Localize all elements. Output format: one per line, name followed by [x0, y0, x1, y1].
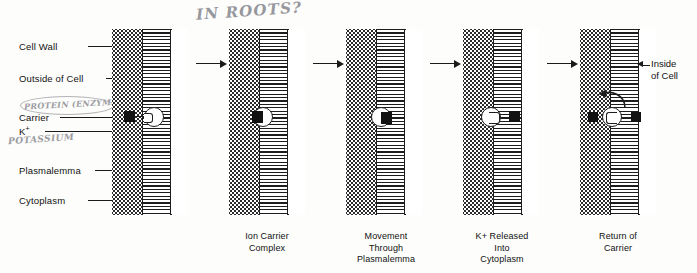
panel-3 [346, 29, 422, 215]
label-carrier: Carrier [19, 112, 49, 123]
panel-5-outside-potassium-ion [588, 112, 598, 122]
leader-inside-of-cell [642, 65, 650, 66]
label-potassium-ion-charge: + [26, 125, 30, 132]
label-inside-of-cell-line2: of Cell [651, 70, 678, 82]
label-cell-wall: Cell Wall [19, 41, 57, 52]
panel-4-carrier [481, 107, 501, 127]
panel-5-cytoplasm [640, 29, 656, 215]
panel-3-bound-potassium-ion [381, 112, 392, 124]
panel-5-return-arrow-icon [596, 87, 630, 111]
caption-panel-5-line1: Return of [562, 231, 674, 243]
panel-1 [112, 29, 188, 215]
caption-panel-5: Return of Carrier [562, 231, 674, 254]
panel-4-released-potassium-ion [509, 111, 520, 122]
panel-2 [229, 29, 305, 215]
handwritten-potassium: POTASSIUM [8, 132, 75, 147]
caption-panel-4: K+ Released Into Cytoplasm [446, 231, 558, 266]
panel-2-bound-potassium-ion [252, 111, 263, 123]
step-arrow-4-head-icon [571, 60, 578, 68]
caption-panel-5-line2: Carrier [562, 243, 674, 255]
panel-3-carrier [371, 107, 391, 127]
panel-4 [463, 29, 539, 215]
step-arrow-2-head-icon [337, 60, 344, 68]
panel-1-cell-wall [112, 29, 143, 215]
caption-panel-2-line2: Complex [211, 243, 323, 255]
caption-panel-3: Movement Through Plasmalemma [330, 231, 442, 266]
step-arrow-2-line [313, 63, 339, 64]
panel-2-cytoplasm [289, 29, 305, 215]
panel-1-carrier-cavity [144, 113, 153, 123]
caption-panel-2-line1: Ion Carrier [211, 231, 323, 243]
panel-1-cytoplasm [172, 29, 188, 215]
step-arrow-1-line [196, 63, 222, 64]
label-inside-of-cell-line1: Inside [651, 58, 678, 70]
panel-3-cytoplasm [406, 29, 422, 215]
label-plasmalemma: Plasmalemma [19, 165, 81, 176]
label-inside-of-cell: Inside of Cell [651, 58, 678, 81]
panel-1-carrier [144, 107, 164, 127]
panel-5-carrier-cavity [606, 112, 617, 124]
step-arrow-3-line [430, 63, 456, 64]
panel-2-carrier [253, 107, 273, 127]
handwritten-title: IN ROOTS? [196, 0, 303, 24]
caption-panel-3-line2: Through [330, 243, 442, 255]
label-cytoplasm: Cytoplasm [19, 195, 65, 206]
label-outside-of-cell: Outside of Cell [19, 73, 84, 84]
caption-panel-3-line3: Plasmalemma [330, 254, 442, 266]
panel-5-cytoplasm-potassium-ion [631, 112, 641, 122]
caption-panel-4-line3: Cytoplasm [446, 254, 558, 266]
leader-potassium-ion [45, 131, 120, 132]
caption-panel-4-line2: Into [446, 243, 558, 255]
panel-4-cytoplasm [523, 29, 539, 215]
caption-panel-2: Ion Carrier Complex [211, 231, 323, 254]
step-arrow-3-head-icon [454, 60, 461, 68]
figure-canvas: IN ROOTS? Cell Wall Outside of Cell PROT… [0, 0, 697, 273]
step-arrow-4-line [547, 63, 573, 64]
caption-panel-3-line1: Movement [330, 231, 442, 243]
caption-panel-4-line1: K+ Released [446, 231, 558, 243]
panel-5 [580, 29, 656, 215]
panel-1-potassium-ion [124, 111, 135, 122]
panel-4-carrier-cavity [489, 112, 500, 124]
step-arrow-1-head-icon [220, 60, 227, 68]
